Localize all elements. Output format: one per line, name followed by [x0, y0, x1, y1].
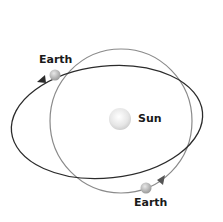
earth-icon: [141, 183, 152, 194]
orbit-diagram-svg: [0, 0, 223, 222]
earth-label-lower: Earth: [134, 196, 167, 209]
sun-icon: [109, 108, 131, 130]
arrow-head-icon: [37, 75, 46, 83]
sun-label: Sun: [138, 112, 162, 125]
earth-icon: [50, 70, 61, 81]
earth-label-upper: Earth: [39, 53, 72, 66]
elliptical-orbit: [6, 56, 209, 187]
orbit-diagram: Earth Sun Earth: [0, 0, 223, 222]
arrow-head-icon: [157, 175, 165, 185]
